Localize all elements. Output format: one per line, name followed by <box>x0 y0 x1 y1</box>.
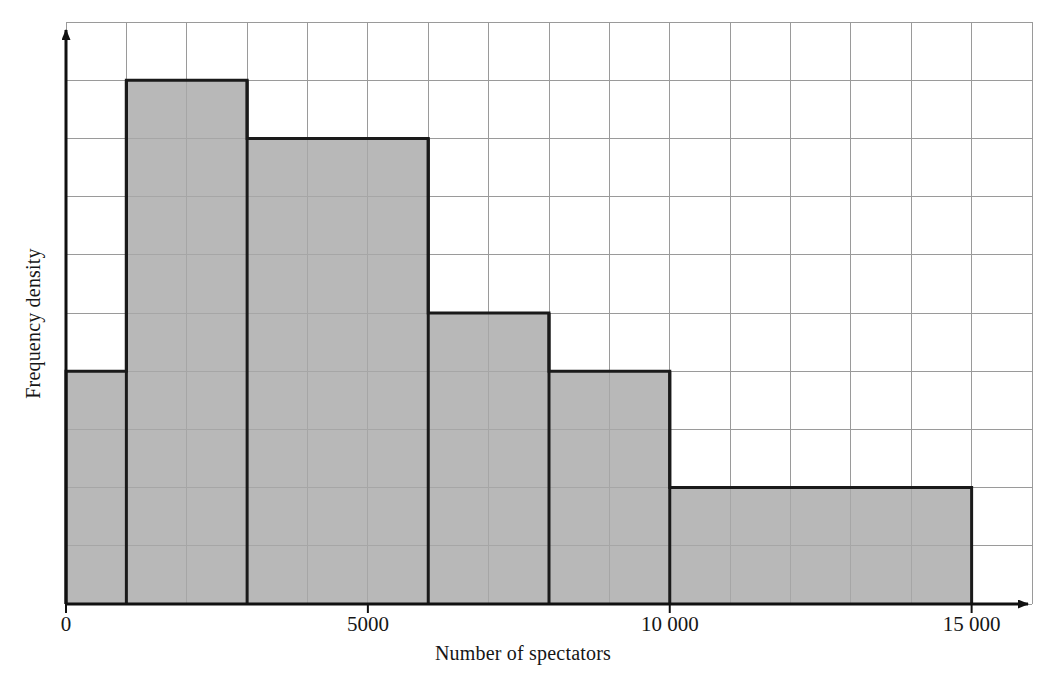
x-tick-label: 10 000 <box>641 612 699 637</box>
histogram-bar <box>549 371 670 604</box>
x-tick-label: 0 <box>61 612 72 637</box>
histogram-figure: 0500010 00015 000 Number of spectators F… <box>0 0 1046 680</box>
histogram-bar <box>66 371 126 604</box>
histogram-bar <box>670 488 972 604</box>
x-tick-label: 15 000 <box>943 612 1001 637</box>
histogram-canvas <box>0 0 1046 680</box>
histogram-bar <box>247 138 428 604</box>
y-axis-title: Frequency density <box>22 219 45 429</box>
histogram-bars <box>66 80 972 604</box>
x-axis-title: Number of spectators <box>0 642 1046 665</box>
histogram-bar <box>428 313 549 604</box>
x-tick-label: 5000 <box>347 612 389 637</box>
histogram-bar <box>126 80 247 604</box>
